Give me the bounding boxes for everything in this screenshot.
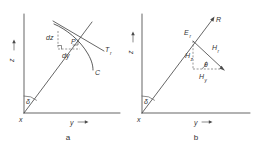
panel-b-ray-label: R [216, 16, 221, 23]
panel-a-tangent-line [53, 21, 104, 51]
panel-a-caption: a [66, 133, 71, 142]
panel-b-hy-sub: y [204, 78, 208, 83]
panel-b-point-label: E [184, 29, 189, 36]
panel-b-caption: b [194, 133, 199, 142]
panel-b-y-axis-label: y [193, 119, 198, 127]
panel-a-z-axis-label: z [8, 58, 15, 63]
panel-a: z y x δ dz dy [8, 14, 121, 142]
panel-b-origin-label: x [136, 116, 141, 123]
panel-a-curve-label: C [95, 69, 101, 76]
panel-a-y-arrow-icon [78, 120, 89, 124]
panel-b: z y x R δ E r [127, 14, 251, 142]
panel-a-angle-label: δ [26, 98, 30, 105]
panel-a-origin-label: x [18, 116, 23, 123]
panel-b-theta-label: θ [204, 61, 208, 68]
panel-b-angle-label: δ [144, 98, 148, 105]
panel-a-point-label: P [71, 38, 76, 45]
panel-b-z-axis-label: z [127, 50, 134, 55]
panel-a-right-angle-corner [58, 46, 62, 50]
panel-b-y-arrow-icon [202, 120, 213, 124]
figure-container: z y x δ dz dy [0, 0, 258, 146]
panel-a-z-arrow-icon [12, 40, 16, 51]
panel-a-dz-label: dz [46, 34, 54, 41]
panel-a-tangent-sub: r [110, 51, 112, 56]
panel-b-point-sub: r [190, 34, 192, 39]
panel-a-dy-label: dy [62, 52, 70, 60]
panel-b-hr-sub: r [218, 49, 220, 54]
panel-a-y-axis-label: y [69, 119, 74, 127]
technical-diagram: z y x δ dz dy [0, 0, 258, 146]
panel-b-z-arrow-icon [131, 32, 135, 43]
